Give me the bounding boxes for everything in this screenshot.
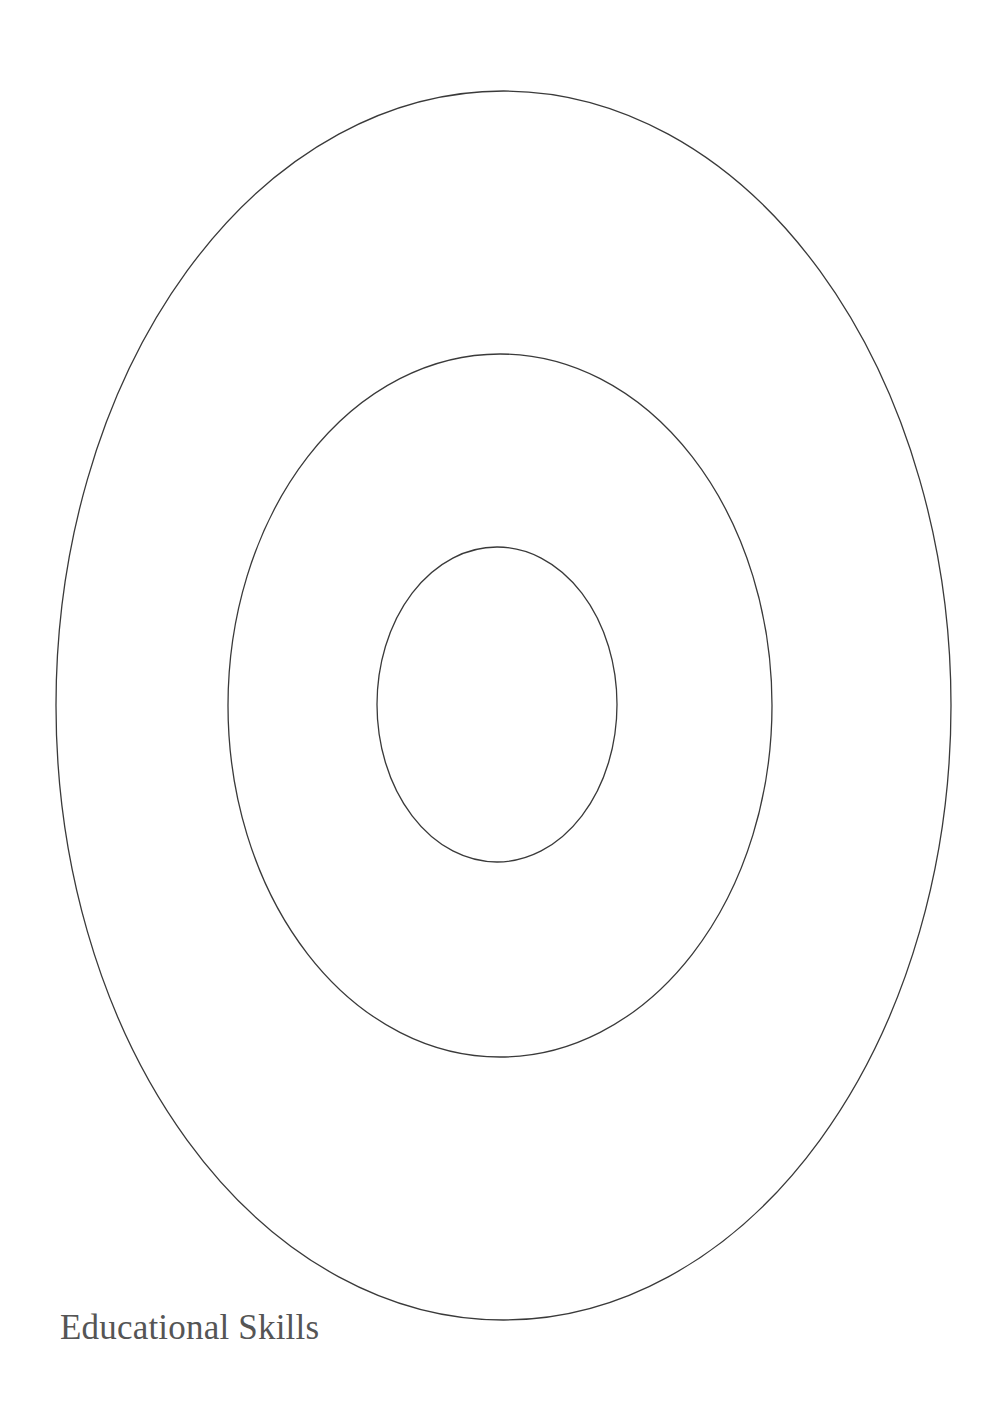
concentric-rings-diagram <box>0 0 998 1401</box>
outer-ring <box>56 91 951 1320</box>
diagram-caption: Educational Skills <box>60 1308 319 1348</box>
middle-ring <box>228 354 772 1057</box>
inner-ring <box>377 547 617 862</box>
